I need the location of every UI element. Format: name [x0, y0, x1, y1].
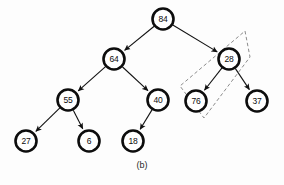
edges-layer	[36, 25, 250, 132]
node-label: 64	[109, 54, 119, 64]
node-label: 40	[153, 95, 163, 105]
tree-node[interactable]: 40	[148, 90, 170, 112]
node-label: 76	[191, 96, 201, 106]
tree-edge	[235, 68, 249, 89]
tree-node[interactable]: 76	[186, 91, 208, 113]
tree-node[interactable]: 64	[104, 49, 126, 71]
node-label: 27	[21, 136, 31, 146]
tree-node[interactable]: 27	[16, 131, 38, 153]
tree-edge	[172, 25, 217, 52]
tree-node[interactable]: 18	[123, 131, 145, 153]
tree-edge	[204, 68, 222, 91]
tree-edge	[140, 109, 152, 129]
node-label: 55	[63, 95, 73, 105]
node-label: 28	[224, 54, 234, 64]
tree-graphic: 8464285540763727618	[0, 0, 284, 185]
tree-node[interactable]: 28	[219, 49, 241, 71]
tree-edge	[122, 66, 148, 90]
tree-node[interactable]: 84	[153, 9, 175, 31]
node-label: 37	[252, 96, 262, 106]
node-label: 84	[158, 14, 168, 24]
tree-edge	[36, 108, 60, 132]
node-label: 18	[128, 136, 138, 146]
tree-edge	[78, 66, 106, 91]
node-label: 6	[87, 136, 92, 146]
binary-tree-figure: 8464285540763727618 (b)	[0, 0, 284, 185]
figure-caption: (b)	[0, 160, 284, 170]
nodes-layer: 8464285540763727618	[16, 9, 269, 153]
tree-node[interactable]: 37	[247, 91, 269, 113]
tree-node[interactable]: 6	[79, 131, 101, 153]
tree-edge	[125, 26, 155, 50]
tree-edge	[73, 110, 83, 129]
tree-node[interactable]: 55	[58, 90, 80, 112]
